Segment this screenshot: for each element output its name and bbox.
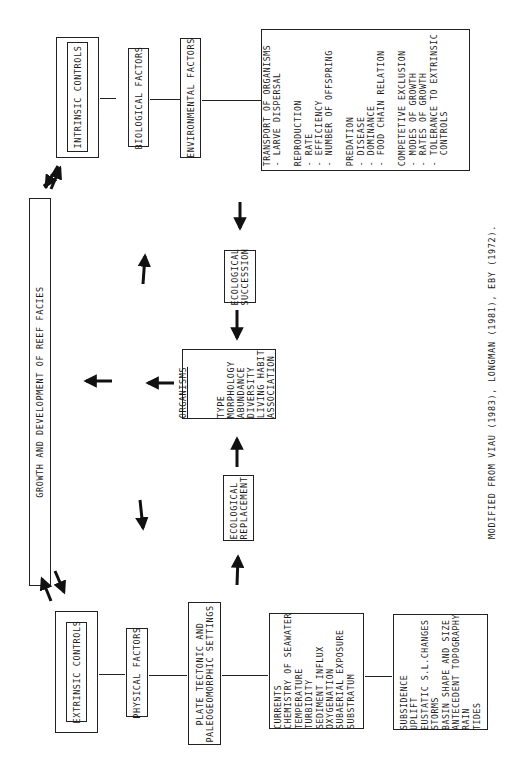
arrows-layer — [0, 0, 514, 764]
source-caption: MODIFIED FROM VIAU (1983), LONGMAN (1981… — [487, 225, 497, 539]
